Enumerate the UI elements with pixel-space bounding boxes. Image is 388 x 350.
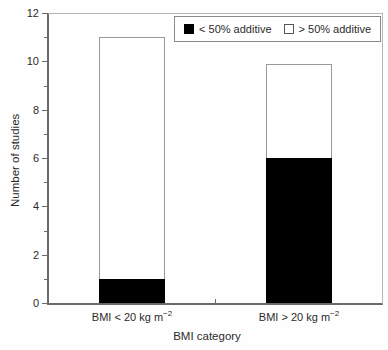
y-minor-tick <box>44 37 48 38</box>
white-square-swatch-icon <box>284 24 294 34</box>
black-square-swatch-icon <box>184 24 194 34</box>
y-major-tick <box>42 61 48 62</box>
bar-segment-lt50 <box>99 279 165 303</box>
y-major-tick <box>42 255 48 256</box>
y-minor-tick <box>44 134 48 135</box>
y-tick-label: 2 <box>1 249 39 261</box>
y-major-tick <box>42 303 48 304</box>
legend-item-gt50: > 50% additive <box>284 23 371 35</box>
y-axis-title: Number of studies <box>9 114 21 207</box>
y-major-tick <box>42 110 48 111</box>
y-minor-tick <box>44 231 48 232</box>
y-minor-tick <box>44 182 48 183</box>
y-major-tick <box>42 206 48 207</box>
legend-item-lt50: < 50% additive <box>184 23 271 35</box>
y-tick-label: 10 <box>1 55 39 67</box>
y-minor-tick <box>44 86 48 87</box>
y-major-tick <box>42 158 48 159</box>
y-tick-label: 0 <box>1 297 39 309</box>
legend-label-gt50: > 50% additive <box>299 23 371 35</box>
legend-label-lt50: < 50% additive <box>199 23 271 35</box>
plot-area <box>47 13 383 305</box>
y-major-tick <box>42 13 48 14</box>
figure: 024681012 BMI < 20 kg m−2BMI > 20 kg m−2… <box>0 0 388 350</box>
y-tick-label: 12 <box>1 7 39 19</box>
x-category-separator-tick <box>215 299 216 303</box>
legend: < 50% additive > 50% additive <box>174 16 381 42</box>
y-minor-tick <box>44 279 48 280</box>
x-category-label: BMI < 20 kg m−2 <box>92 311 172 323</box>
bar-segment-lt50 <box>266 158 332 303</box>
x-category-label: BMI > 20 kg m−2 <box>259 311 339 323</box>
x-axis-title: BMI category <box>147 330 267 342</box>
stacked-bar <box>99 37 165 303</box>
